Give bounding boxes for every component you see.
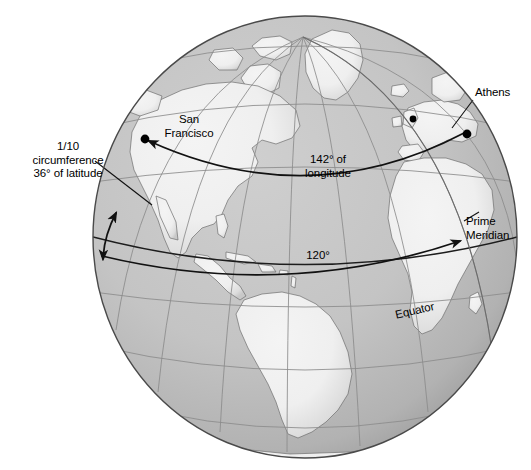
land-aleutian-chain [104,118,122,126]
label-longitude-142: 142° of longitude [288,153,368,180]
globe-figure: 1/10 circumference 36° of latitude San F… [0,0,531,470]
marker-unlabeled-north-atlantic [410,116,417,123]
label-prime-meridian: Prime Meridian [466,215,528,242]
globe-illustration [0,0,531,470]
label-san-francisco: San Francisco [152,113,226,140]
marker-athens [463,130,472,139]
land-ireland [392,116,402,127]
label-athens: Athens [475,86,529,100]
land-lesser-antilles [291,276,296,288]
marker-san-francisco [141,135,150,144]
label-circumference: 1/10 circumference 36° of latitude [14,140,122,181]
label-degrees-120: 120° [293,249,343,263]
